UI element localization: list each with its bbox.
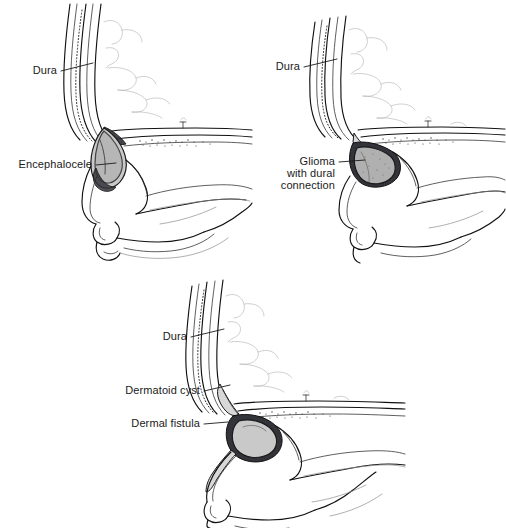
- panel-glioma: Dura Glioma with dural connection: [253, 0, 506, 264]
- figure-canvas: Dura Encephalocele: [0, 0, 506, 528]
- label-dura: Dura: [163, 330, 188, 342]
- label-dura: Dura: [276, 60, 301, 72]
- label-glioma-line1: Glioma: [300, 155, 336, 167]
- label-encephalocele: Encephalocele: [19, 158, 92, 170]
- leader-line-dermal-fistula: [204, 422, 228, 424]
- label-dura: Dura: [33, 64, 58, 76]
- annotation-dura: Dura: [276, 59, 337, 72]
- panel-encephalocele: Dura Encephalocele: [0, 0, 253, 264]
- label-dermal-fistula: Dermal fistula: [131, 417, 200, 429]
- label-dermatoid-cyst: Dermatoid cyst: [125, 384, 200, 396]
- annotation-dermal-fistula: Dermal fistula: [131, 417, 228, 429]
- annotation-dermatoid-cyst: Dermatoid cyst: [125, 384, 230, 396]
- leader-line-dermatoid-cyst: [204, 385, 230, 391]
- leader-line-dura: [61, 63, 93, 71]
- annotation-dura: Dura: [33, 63, 93, 76]
- label-glioma-line2: with dural: [286, 167, 335, 179]
- label-glioma-line3: connection: [281, 179, 335, 191]
- leader-line-dura: [191, 329, 224, 337]
- panel-dermatoid: Dura Dermatoid cyst Dermal fistula: [100, 264, 406, 528]
- leader-line-dura: [304, 59, 337, 67]
